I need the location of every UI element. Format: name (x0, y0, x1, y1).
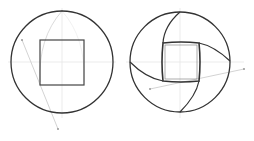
geometry-figure (0, 0, 254, 141)
construction-point (57, 128, 59, 130)
construction-point (149, 88, 151, 90)
pinwheel-arc-left (130, 62, 163, 81)
pinwheel-arc-top (163, 12, 180, 43)
pinwheel-arc-bottom (180, 81, 199, 112)
construction-point (243, 68, 245, 70)
left-panel (8, 8, 116, 130)
pinwheel-arc-right (199, 43, 230, 61)
construction-arc-faint (62, 11, 84, 82)
right-panel (126, 8, 245, 118)
construction-arc (40, 11, 62, 82)
construction-point (21, 39, 23, 41)
